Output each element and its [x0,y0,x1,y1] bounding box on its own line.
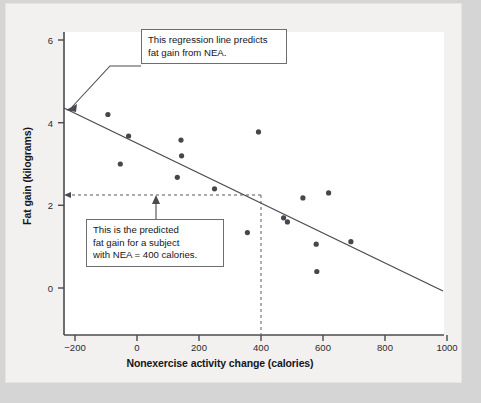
data-point [175,175,180,180]
data-point [118,161,123,166]
prediction-callout-box: This is the predicted fat gain for a sub… [86,219,224,267]
x-tick-label: 400 [241,342,281,353]
data-point [281,215,286,220]
x-tick-marks [75,335,447,341]
data-point [256,129,261,134]
data-point [326,190,331,195]
y-tick-label: 6 [31,35,53,46]
data-point [245,230,250,235]
data-point [314,269,319,274]
plot-canvas [64,32,444,335]
x-tick-label: 800 [365,342,405,353]
data-point [314,242,319,247]
data-point [300,195,305,200]
y-tick-marks [58,40,64,288]
y-tick-label: 4 [31,118,53,129]
data-point [105,112,110,117]
x-tick-label: 0 [117,342,157,353]
data-point [179,153,184,158]
x-tick-label: 200 [179,342,219,353]
data-point [126,133,131,138]
data-point [285,219,290,224]
x-tick-label: 600 [303,342,343,353]
y-tick-label: 0 [31,283,53,294]
y-tick-label: 2 [31,200,53,211]
figure-container: −200 0 200 400 600 800 1000 0 2 4 6 None… [0,0,481,403]
regression-callout-box: This regression line predicts fat gain f… [141,29,287,64]
data-point [348,239,353,244]
x-axis-title: Nonexercise activity change (calories) [0,357,440,369]
data-point [178,138,183,143]
y-axis-title: Fat gain (kilograms) [21,86,33,266]
x-tick-label: −200 [55,342,95,353]
data-point [212,186,217,191]
x-tick-label: 1000 [427,342,467,353]
